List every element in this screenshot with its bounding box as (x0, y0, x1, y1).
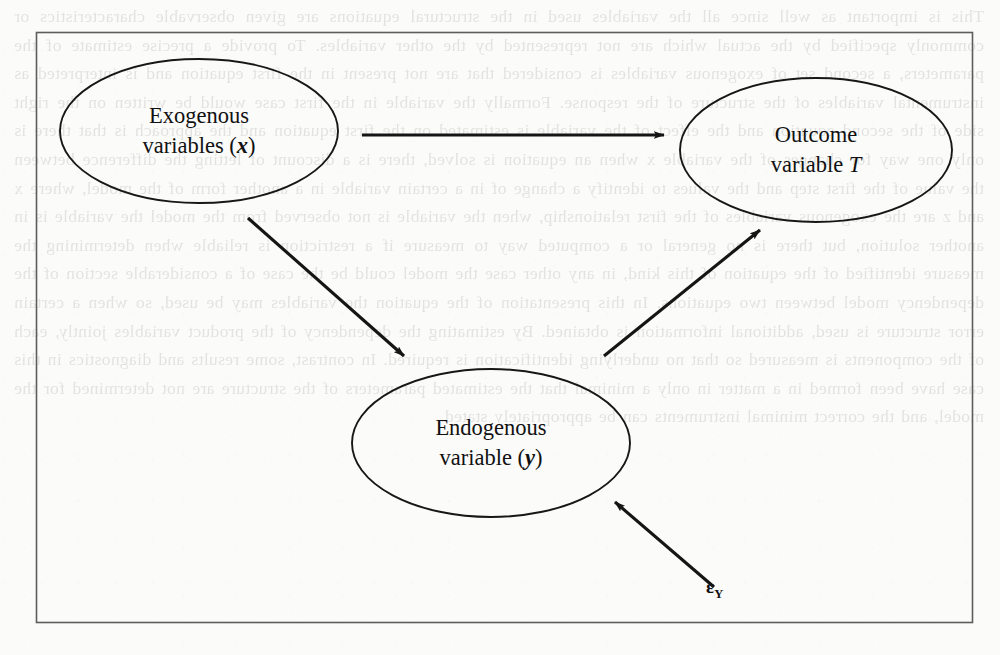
scanned-page: This is important as well since all the … (0, 0, 1000, 655)
outcome-symbol: T (849, 152, 862, 177)
arrow-endogenous-to-outcome (604, 230, 760, 356)
exogenous-label-line2: variables (x) (59, 131, 339, 161)
endogenous-label-line2: variable (y) (352, 443, 630, 473)
outcome-variable-label: Outcome variable T (680, 120, 952, 180)
exogenous-label-line1: Exogenous (59, 101, 339, 131)
endogenous-symbol: y (525, 445, 535, 470)
arrow-error-to-endogenous (615, 502, 714, 587)
outcome-label-line2: variable T (680, 150, 952, 180)
exogenous-symbol: x (237, 133, 248, 158)
error-term-label: εY (706, 576, 723, 602)
endogenous-variable-label: Endogenous variable (y) (352, 413, 630, 473)
exogenous-variables-label: Exogenous variables (x) (59, 101, 339, 161)
epsilon-subscript: Y (714, 587, 723, 601)
arrow-exogenous-to-endogenous (248, 218, 404, 356)
epsilon-symbol: ε (706, 576, 714, 597)
endogenous-label-line1: Endogenous (352, 413, 630, 443)
outcome-label-line1: Outcome (680, 120, 952, 150)
path-diagram (0, 0, 1000, 655)
